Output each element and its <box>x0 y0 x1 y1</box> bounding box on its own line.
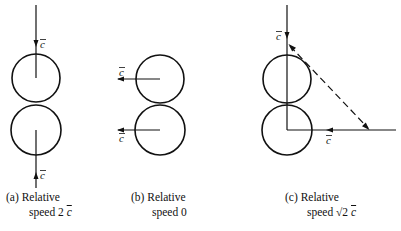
panel-c: c c <box>262 5 396 155</box>
caption-b: (b) Relative speed 0 <box>131 190 187 220</box>
caption-b-speed-text: speed 0 <box>152 206 187 218</box>
caption-a-speed-var: c <box>67 206 72 218</box>
panel-b: c c <box>117 55 185 155</box>
caption-c-line1: (c) Relative <box>285 191 339 203</box>
arrowhead-down-icon <box>285 32 290 39</box>
caption-c: (c) Relative speed √2 c <box>285 190 356 220</box>
caption-b-line2: speed 0 <box>131 205 187 220</box>
caption-a-line2: speed 2 c <box>6 205 72 220</box>
caption-a: (a) Relative speed 2 c <box>6 190 72 220</box>
caption-a-line1: (a) Relative <box>6 191 60 203</box>
arrowhead-diagonal-icon <box>362 123 370 130</box>
arrowhead-up-icon <box>34 172 39 179</box>
arrowhead-left-icon <box>326 128 333 133</box>
caption-c-speed-text: speed √2 <box>307 206 351 218</box>
panel-a: c c <box>11 5 61 188</box>
arrowhead-down-icon <box>34 40 39 47</box>
caption-a-speed-text: speed 2 <box>29 206 67 218</box>
caption-c-speed-var: c <box>351 206 356 218</box>
caption-c-line2: speed √2 c <box>285 205 356 220</box>
caption-b-line1: (b) Relative <box>131 191 186 203</box>
relative-velocity-dashed-line <box>290 46 368 128</box>
